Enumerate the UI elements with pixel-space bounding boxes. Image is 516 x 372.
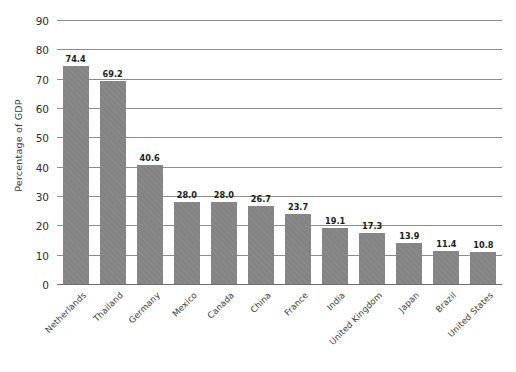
bar-group[interactable]: 28.0 xyxy=(174,20,200,284)
x-tick-label: Canada xyxy=(205,290,236,321)
bar-value-label: 19.1 xyxy=(325,216,345,226)
x-tick-label: Mexico xyxy=(170,290,199,319)
bar[interactable] xyxy=(285,214,311,284)
x-tick-label: China xyxy=(248,290,273,315)
bar-group[interactable]: 13.9 xyxy=(396,20,422,284)
y-tick-label: 10 xyxy=(36,250,49,262)
bar-value-label: 28.0 xyxy=(214,190,234,200)
bar-value-label: 26.7 xyxy=(251,194,271,204)
bar-value-label: 74.4 xyxy=(65,54,85,64)
bar-value-label: 23.7 xyxy=(288,202,308,212)
bar[interactable] xyxy=(433,251,459,284)
x-tick-label: Japan xyxy=(397,290,421,314)
bar-chart: Percentage of GDP 9080706050403020100 74… xyxy=(0,0,516,372)
x-tick-label: Brazil xyxy=(434,290,458,314)
bar-value-label: 10.8 xyxy=(473,240,493,250)
bar-group[interactable]: 11.4 xyxy=(433,20,459,284)
x-tick-label: Netherlands xyxy=(43,290,88,335)
y-axis-title-label: Percentage of GDP xyxy=(13,99,24,191)
bar[interactable] xyxy=(396,243,422,284)
bar[interactable] xyxy=(322,228,348,284)
bar[interactable] xyxy=(100,81,126,284)
bar-group[interactable]: 40.6 xyxy=(137,20,163,284)
x-tick-label: Thailand xyxy=(91,290,125,324)
bar-value-label: 13.9 xyxy=(399,231,419,241)
bar[interactable] xyxy=(470,252,496,284)
bar-group[interactable]: 69.2 xyxy=(100,20,126,284)
bar[interactable] xyxy=(359,233,385,284)
y-tick-label: 80 xyxy=(36,44,49,56)
bar[interactable] xyxy=(174,202,200,284)
bar-value-label: 69.2 xyxy=(103,69,123,79)
bar-group[interactable]: 10.8 xyxy=(470,20,496,284)
bar-group[interactable]: 17.3 xyxy=(359,20,385,284)
y-axis-title: Percentage of GDP xyxy=(0,0,36,290)
y-tick-label: 30 xyxy=(36,191,49,203)
y-tick-label: 90 xyxy=(36,15,49,27)
x-tick-label: Germany xyxy=(126,290,161,325)
x-axis-labels: NetherlandsThailandGermanyMexicoCanadaCh… xyxy=(57,284,502,372)
bar-group[interactable]: 28.0 xyxy=(211,20,237,284)
y-tick-label: 20 xyxy=(36,220,49,232)
bar-value-label: 11.4 xyxy=(436,239,456,249)
bar-group[interactable]: 23.7 xyxy=(285,20,311,284)
y-tick-label: 60 xyxy=(36,103,49,115)
x-tick-label: France xyxy=(282,290,310,318)
bar-group[interactable]: 19.1 xyxy=(322,20,348,284)
bar-value-label: 28.0 xyxy=(177,190,197,200)
bar[interactable] xyxy=(211,202,237,284)
bar[interactable] xyxy=(248,206,274,284)
y-tick-label: 40 xyxy=(36,162,49,174)
y-tick-label: 50 xyxy=(36,132,49,144)
bar-group[interactable]: 26.7 xyxy=(248,20,274,284)
bar[interactable] xyxy=(137,165,163,284)
bar-value-label: 40.6 xyxy=(140,153,160,163)
plot-area: 9080706050403020100 74.469.240.628.028.0… xyxy=(57,20,502,284)
bar[interactable] xyxy=(63,66,89,284)
y-tick-label: 70 xyxy=(36,74,49,86)
y-tick-label: 0 xyxy=(42,279,49,291)
x-tick-label: India xyxy=(325,290,347,312)
bars-layer: 74.469.240.628.028.026.723.719.117.313.9… xyxy=(57,20,502,284)
bar-group[interactable]: 74.4 xyxy=(63,20,89,284)
bar-value-label: 17.3 xyxy=(362,221,382,231)
